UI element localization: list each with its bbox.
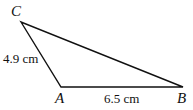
side-label-ca: 4.9 cm (3, 52, 38, 65)
vertex-label-b: B (177, 91, 186, 106)
triangle-diagram: C A B 4.9 cm 6.5 cm (0, 0, 193, 110)
vertex-label-c: C (11, 4, 21, 19)
vertex-label-a: A (55, 91, 64, 106)
side-label-ab: 6.5 cm (104, 92, 139, 105)
